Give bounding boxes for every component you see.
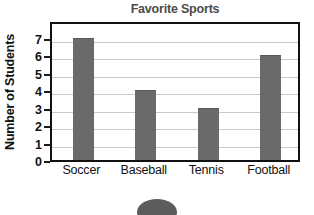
x-tick-label-football: Football — [247, 163, 290, 177]
bar-baseball — [135, 90, 156, 160]
bar-football — [260, 55, 281, 160]
x-tick-label-baseball: Baseball — [121, 163, 167, 177]
y-tick-label: 3 — [22, 103, 42, 116]
x-tick-label-soccer: Soccer — [62, 163, 100, 177]
y-tick-label: 4 — [22, 86, 42, 99]
y-axis-tick-labels: 01234567 — [22, 22, 42, 162]
chart-title: Favorite Sports — [50, 2, 300, 16]
bar-chart-figure: Favorite Sports Number of Students 01234… — [0, 0, 314, 215]
page-number-blob-icon — [137, 199, 177, 215]
y-axis-label: Number of Students — [3, 34, 17, 150]
y-tick-label: 2 — [22, 121, 42, 134]
y-tick-label: 1 — [22, 138, 42, 151]
y-tick-label: 5 — [22, 68, 42, 81]
bar-soccer — [73, 38, 94, 161]
x-tick-label-tennis: Tennis — [189, 163, 224, 177]
y-tick-label: 0 — [22, 156, 42, 169]
plot-area — [50, 22, 300, 162]
y-axis-label-container: Number of Students — [0, 22, 20, 162]
plot-inner — [52, 24, 298, 160]
x-axis-tick-labels: SoccerBaseballTennisFootball — [50, 163, 300, 183]
y-tick-label: 7 — [22, 33, 42, 46]
bar-tennis — [198, 108, 219, 161]
y-tick-label: 6 — [22, 51, 42, 64]
